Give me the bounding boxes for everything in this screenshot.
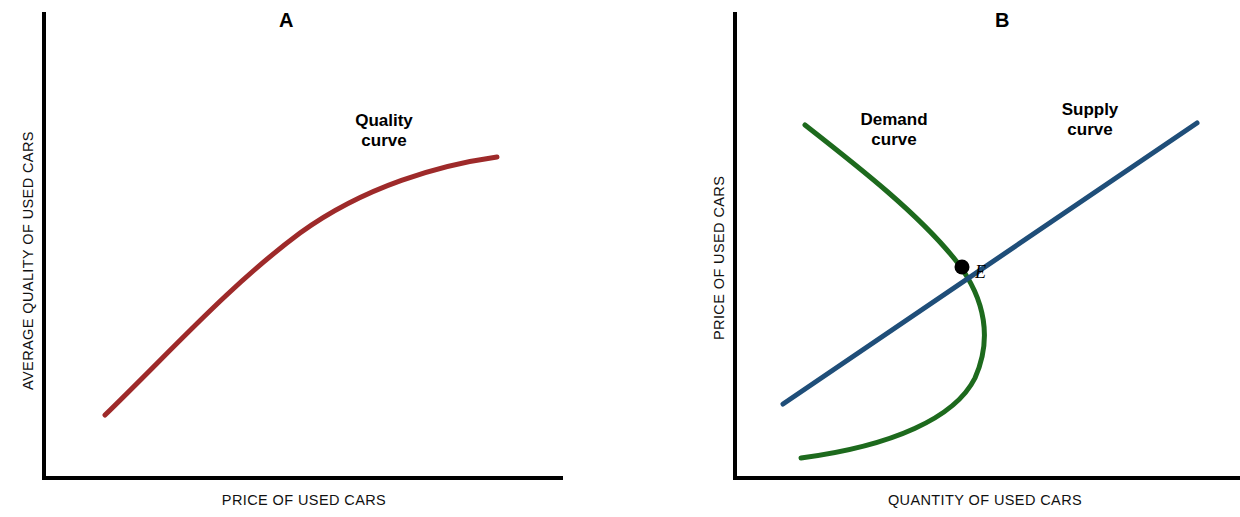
quality-curve bbox=[105, 157, 497, 415]
demand-curve-label: Demand curve bbox=[832, 110, 956, 150]
supply-curve-label: Supply curve bbox=[1035, 100, 1145, 140]
demand-curve bbox=[801, 125, 984, 458]
panel-b: B Demand curve Supply curve E PRICE OF U… bbox=[620, 0, 1240, 517]
panel-a-y-axis-label: AVERAGE QUALITY OF USED CARS bbox=[20, 131, 36, 390]
panel-b-y-axis-label: PRICE OF USED CARS bbox=[711, 176, 727, 340]
panel-a: A Quality curve AVERAGE QUALITY OF USED … bbox=[0, 0, 620, 517]
equilibrium-point-label: E bbox=[975, 262, 986, 283]
equilibrium-point bbox=[955, 260, 970, 275]
panel-b-x-axis-label: QUANTITY OF USED CARS bbox=[735, 492, 1235, 508]
panel-a-plot bbox=[0, 0, 620, 517]
quality-curve-label: Quality curve bbox=[324, 111, 444, 151]
figure-container: A Quality curve AVERAGE QUALITY OF USED … bbox=[0, 0, 1240, 517]
panel-a-x-axis-label: PRICE OF USED CARS bbox=[44, 492, 564, 508]
supply-curve bbox=[783, 123, 1197, 404]
